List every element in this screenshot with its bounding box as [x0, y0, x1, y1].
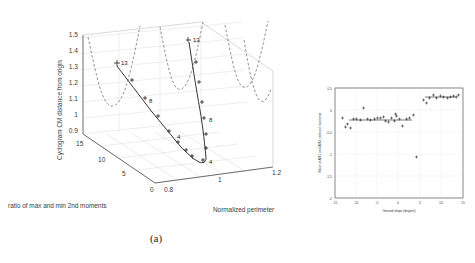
panel-b-canvas: 0.5 0 -0.5 -1 -1.5 -2 -15 -10 -5 0 5 10 …	[305, 0, 475, 234]
x-tick: 0	[397, 201, 399, 205]
scatter-svg: 0.5 0 -0.5 -1 -1.5 -2 -15 -10 -5 0 5 10 …	[305, 0, 475, 230]
z-tick: 1	[74, 111, 78, 118]
caption-a: (a)	[136, 232, 176, 244]
floor-plane	[83, 121, 273, 183]
y-tick: -0.5	[326, 131, 332, 135]
projection-curve-2	[160, 22, 203, 89]
x-axis-ticks: -15 -10 -5 0 5 10 15	[333, 201, 465, 205]
panel-a: 1.5 1.4 1.3 1.2 1.1 1 0.9 15 10 5 0	[0, 0, 300, 263]
x-tick: 15	[76, 140, 84, 147]
x-tick: 15	[461, 201, 465, 205]
panel-a-canvas: 1.5 1.4 1.3 1.2 1.1 1 0.9 15 10 5 0	[0, 0, 300, 234]
z-tick: 0.9	[69, 127, 78, 134]
projection-curve-4	[244, 40, 271, 101]
trend-lines	[349, 97, 456, 120]
z-tick: 1.5	[69, 31, 78, 38]
z-tick: 1.1	[69, 95, 78, 102]
z-axis-ticks: 1.5 1.4 1.3 1.2 1.1 1 0.9	[69, 31, 79, 134]
y-axis-ticks: 0.5 0 -0.5 -1 -1.5 -2	[326, 87, 332, 201]
x-tick: 10	[98, 156, 106, 163]
y-axis-title: Normalized perimeter	[213, 206, 275, 214]
z-tick: 1.2	[69, 79, 78, 86]
x-tick: 0	[150, 186, 154, 193]
y-tick: 0.8	[164, 186, 173, 193]
point-label: 8	[209, 117, 213, 123]
outlier-marker	[415, 156, 418, 159]
grid	[335, 88, 463, 198]
x-tick: -5	[375, 201, 378, 205]
figure-root: 1.5 1.4 1.3 1.2 1.1 1 0.9 15 10 5 0	[0, 0, 475, 263]
x-tick: -10	[354, 201, 359, 205]
y-tick: 0	[330, 109, 332, 113]
axis-lines	[83, 22, 273, 183]
x-tick: -15	[333, 201, 338, 205]
x-axis-title: Ground slope (degree)	[382, 209, 415, 213]
point-label: 13	[121, 60, 128, 66]
y-tick: -1	[329, 153, 332, 157]
plot-3d-svg: 1.5 1.4 1.3 1.2 1.1 1 0.9 15 10 5 0	[0, 0, 300, 230]
x-axis-ticks: 15 10 5 0	[76, 140, 154, 193]
z-tick: 1.4	[69, 47, 78, 54]
trajectory-front	[117, 66, 193, 158]
point-label: 8	[149, 98, 153, 104]
z-axis-title: Cyclogram CM distance from origin	[56, 60, 64, 160]
point-label: 13	[193, 37, 200, 43]
x-tick: 5	[419, 201, 421, 205]
x-tick: 10	[439, 201, 443, 205]
y-axis-ticks: 0.8 1 1.2	[164, 169, 281, 193]
panel-b: 0.5 0 -0.5 -1 -1.5 -2 -15 -10 -5 0 5 10 …	[305, 0, 475, 263]
projection-curve-1	[88, 26, 140, 106]
point-label: 4	[209, 159, 213, 165]
point-label: 4	[177, 134, 181, 140]
backwall-verticals	[119, 25, 201, 133]
projection-curves	[88, 21, 271, 106]
x-tick: 5	[122, 170, 126, 177]
trajectory-front-markers	[114, 60, 194, 158]
y-tick: -1.5	[326, 175, 332, 179]
x-axis-title: ratio of max and min 2nd moments	[8, 202, 106, 209]
y-tick: 1	[218, 176, 222, 183]
z-tick: 1.3	[69, 63, 78, 70]
y-tick: 1.2	[272, 169, 281, 176]
y-axis-title: Value of AM1 and AM2 centroid moments	[318, 112, 322, 173]
plot-frame	[335, 88, 463, 198]
y-tick: 0.5	[327, 87, 332, 91]
